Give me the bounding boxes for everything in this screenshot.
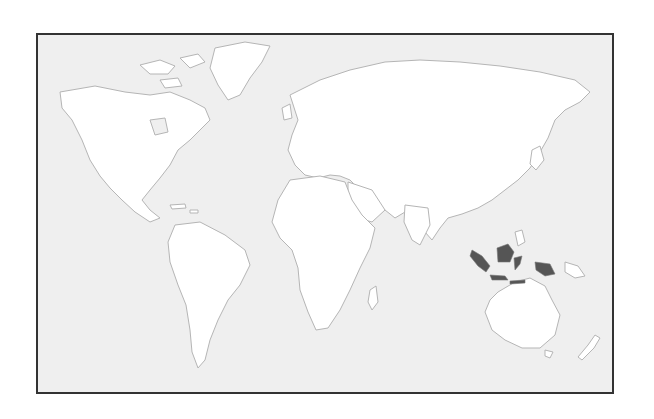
- lesser-sunda: [510, 280, 525, 284]
- java: [490, 275, 508, 280]
- south-america: [168, 222, 250, 368]
- philippines: [515, 230, 525, 246]
- world-map: [0, 0, 654, 419]
- india: [404, 205, 430, 245]
- australia: [485, 278, 560, 348]
- tasmania: [545, 350, 553, 358]
- madagascar: [368, 286, 378, 310]
- north-america: [60, 86, 210, 222]
- western-new-guinea: [535, 262, 555, 276]
- borneo: [497, 244, 514, 262]
- uk: [282, 104, 292, 120]
- new-zealand: [578, 335, 600, 360]
- caribbean: [170, 204, 198, 213]
- sulawesi: [514, 256, 522, 270]
- sumatra: [470, 250, 490, 272]
- greenland: [210, 42, 270, 100]
- papua-new-guinea: [565, 262, 585, 278]
- indonesia-highlight: [470, 244, 555, 284]
- arctic-islands: [140, 54, 205, 88]
